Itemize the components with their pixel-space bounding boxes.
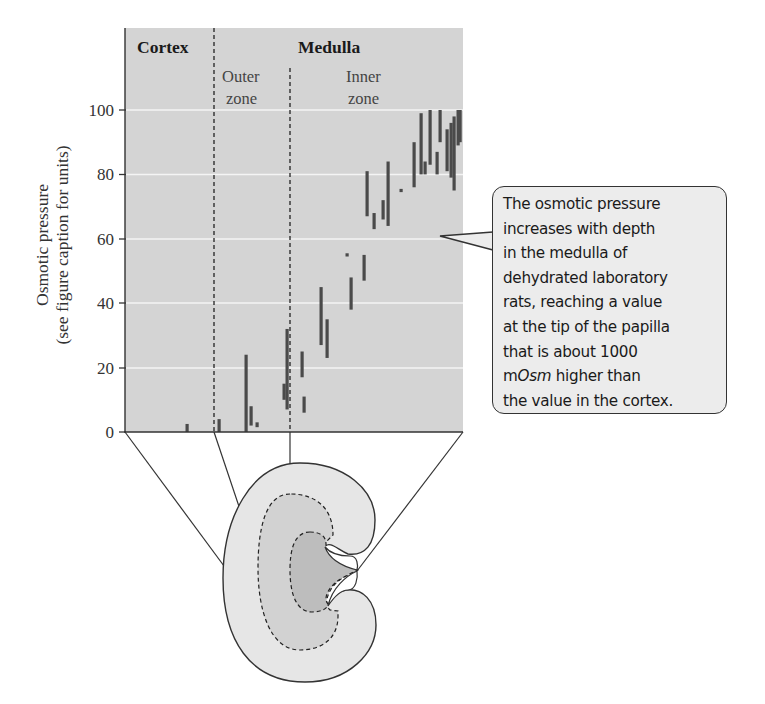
kidney-diagram [223, 463, 376, 682]
tick-label: 100 [89, 101, 115, 120]
data-bar [218, 419, 221, 432]
y-axis-label: Osmotic pressure (see figure caption for… [32, 145, 72, 344]
tick-label: 60 [97, 230, 114, 249]
data-bar [283, 384, 286, 400]
data-bar [245, 355, 248, 432]
callout-text: higher than [551, 367, 640, 385]
callout-line: mOsm higher than [503, 364, 718, 389]
tick-label: 40 [97, 294, 114, 313]
callout-text: m [503, 367, 518, 385]
callout-line: in the medulla of [503, 241, 718, 266]
data-bar [446, 129, 449, 171]
data-bar [366, 171, 369, 216]
region-label-cortex: Cortex [137, 37, 189, 57]
callout-line: that is about 1000 [503, 340, 718, 365]
data-bar [436, 152, 439, 175]
tick-label: 20 [97, 359, 114, 378]
data-bar [363, 255, 366, 281]
data-bar [459, 110, 462, 142]
callout-line: the value in the cortex. [503, 389, 718, 414]
y-axis-title: Osmotic pressure [32, 184, 52, 306]
data-bar [429, 110, 432, 165]
callout-line: at the tip of the papilla [503, 315, 718, 340]
data-bar [350, 277, 353, 309]
data-bar [326, 319, 329, 358]
data-bar [286, 329, 289, 410]
data-bar [256, 422, 259, 427]
tick-label: 80 [97, 165, 114, 184]
plot-area [125, 28, 463, 432]
data-bar [382, 200, 385, 219]
data-bar [453, 116, 456, 190]
annotation-callout: The osmotic pressure increases with dept… [492, 186, 727, 414]
data-bar [303, 397, 306, 413]
callout-line: dehydrated laboratory [503, 266, 718, 291]
data-bar [387, 162, 390, 226]
data-bar [413, 142, 416, 187]
data-bar [450, 123, 453, 178]
outer-zone-label-1: Outer [222, 67, 260, 86]
callout-line: rats, reaching a value [503, 290, 718, 315]
inner-zone-label-2: zone [348, 89, 379, 108]
data-bar [186, 424, 189, 432]
data-bar [250, 406, 253, 425]
y-tick-labels: 0 20 40 60 80 100 [89, 101, 115, 442]
data-bar [373, 213, 376, 229]
callout-line: The osmotic pressure [503, 192, 718, 217]
callout-line: increases with depth [503, 217, 718, 242]
data-bar [400, 189, 403, 192]
tick-label: 0 [106, 423, 115, 442]
outer-zone-label-2: zone [226, 89, 257, 108]
data-bar [320, 287, 323, 345]
callout-unit-osm: Osm [518, 367, 552, 385]
y-axis-subtitle: (see figure caption for units) [52, 145, 72, 344]
data-bar [346, 253, 349, 256]
data-bar [420, 113, 423, 174]
region-label-medulla: Medulla [298, 37, 360, 57]
data-bar [301, 352, 304, 378]
data-bar [439, 110, 442, 142]
data-bar [424, 162, 427, 175]
inner-zone-label-1: Inner [346, 67, 381, 86]
